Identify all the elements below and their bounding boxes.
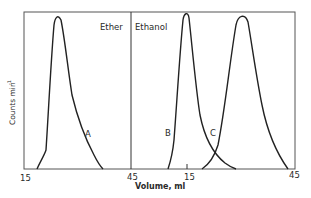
peak-c-curve: [202, 16, 288, 169]
y-axis-label: Counts min: [8, 82, 17, 125]
peak-a-curve: [37, 17, 103, 169]
x-tick-label-45-mid: 45: [127, 172, 138, 182]
y-axis-label-group: Counts min -1: [6, 80, 17, 125]
ethanol-label: Ethanol: [135, 22, 167, 32]
y-axis-label-superscript: -1: [6, 80, 12, 85]
plot-frame: [24, 12, 295, 169]
x-axis-label: Volume, ml: [135, 182, 186, 191]
peak-b-label: B: [165, 128, 171, 138]
x-tick-label-45-right: 45: [289, 170, 300, 180]
ether-label: Ether: [100, 22, 123, 32]
x-tick-label-15-left: 15: [20, 173, 31, 183]
peak-a-label: A: [85, 129, 91, 139]
peak-c-label: C: [210, 128, 216, 138]
chromatogram-chart: Ether Ethanol A B C 15 45 15 45 Volume, …: [0, 0, 311, 198]
x-tick-label-15-right: 15: [184, 172, 195, 182]
